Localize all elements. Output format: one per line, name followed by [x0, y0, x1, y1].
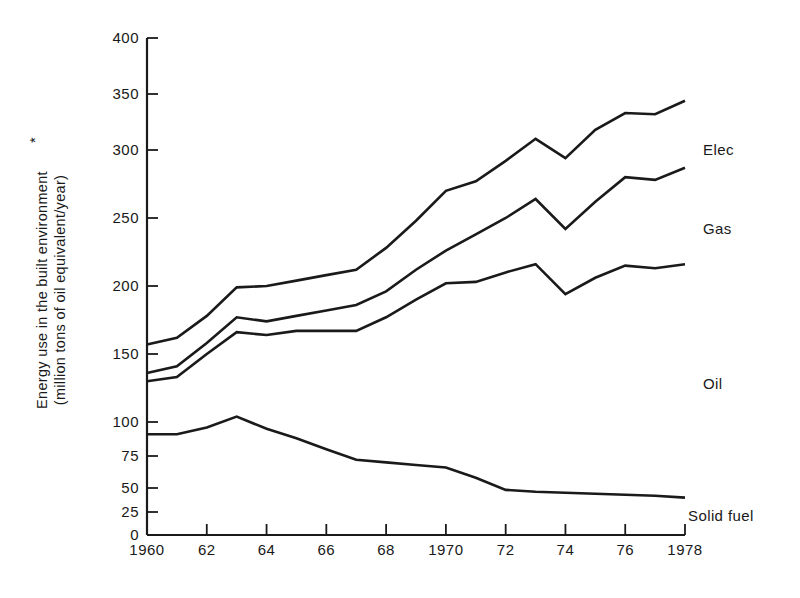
y-axis-title-asterisk: *	[27, 137, 43, 143]
series-label-solid-fuel: Solid fuel	[688, 507, 754, 524]
x-tick-label: 74	[557, 541, 575, 558]
y-tick-label: 300	[112, 141, 139, 158]
y-tick-label: 250	[112, 209, 139, 226]
x-tick-label: 68	[377, 541, 395, 558]
x-tick-label: 64	[258, 541, 276, 558]
y-tick-marks	[147, 38, 158, 535]
chart-canvas: Energy use in the built environment * (m…	[0, 0, 800, 598]
series-label-oil: Oil	[703, 375, 723, 392]
y-tick-label: 100	[112, 413, 139, 430]
y-tick-label: 150	[112, 345, 139, 362]
y-tick-label: 400	[112, 29, 139, 46]
x-tick-marks	[147, 524, 685, 535]
x-tick-label: 1978	[667, 541, 702, 558]
y-tick-label: 75	[121, 447, 139, 464]
series-label-gas: Gas	[703, 220, 732, 237]
y-tick-label: 350	[112, 85, 139, 102]
data-series-group	[147, 101, 685, 498]
y-tick-label: 25	[121, 503, 139, 520]
y-tick-labels: 0255075100150200250300350400	[112, 29, 139, 543]
energy-use-line-chart: Energy use in the built environment * (m…	[0, 0, 800, 598]
series-line-oil	[147, 264, 685, 381]
y-axis-title: Energy use in the built environment * (m…	[27, 137, 68, 409]
y-axis-title-line2: (million tons of oil equivalent/year)	[52, 175, 68, 405]
x-tick-label: 66	[317, 541, 335, 558]
y-tick-label: 50	[121, 479, 139, 496]
x-tick-label: 76	[616, 541, 634, 558]
y-tick-label: 200	[112, 277, 139, 294]
x-tick-label: 62	[198, 541, 216, 558]
axes	[147, 38, 685, 535]
x-tick-label: 1970	[428, 541, 463, 558]
x-tick-labels: 19606264666819707274761978	[129, 541, 702, 558]
y-axis-title-line1: Energy use in the built environment	[34, 171, 50, 409]
x-tick-label: 72	[497, 541, 515, 558]
series-line-solid-fuel	[147, 417, 685, 498]
x-tick-label: 1960	[129, 541, 164, 558]
series-line-gas	[147, 168, 685, 373]
series-label-elec: Elec	[703, 141, 734, 158]
series-line-elec	[147, 101, 685, 345]
